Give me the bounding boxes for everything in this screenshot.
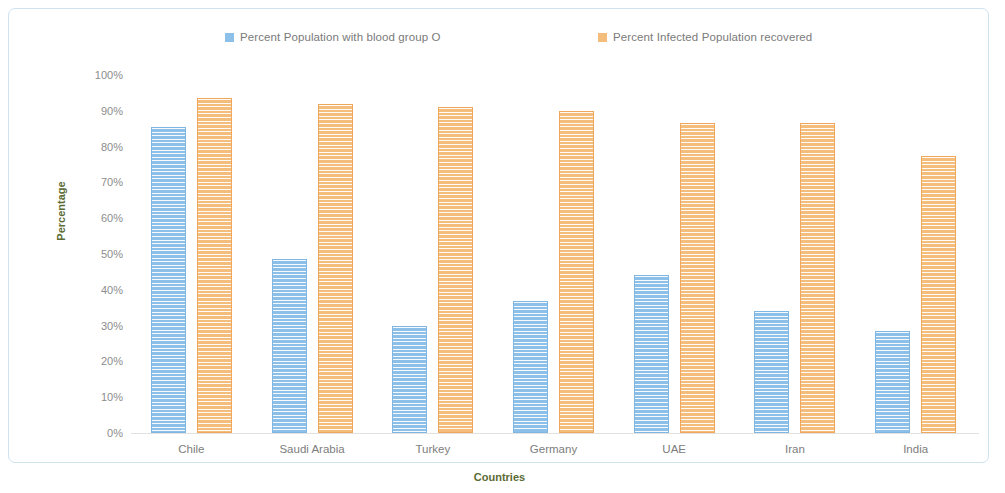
x-tick-label-germany: Germany [493, 443, 614, 455]
bar-group [131, 75, 252, 433]
legend-label-series-0: Percent Population with blood group O [240, 31, 441, 43]
bar-group [493, 75, 614, 433]
bar-group [614, 75, 735, 433]
x-tick-label-uae: UAE [614, 443, 735, 455]
bar-turkey-series-1[interactable] [438, 107, 473, 433]
x-tick-label-turkey: Turkey [372, 443, 493, 455]
y-tick-label: 0% [77, 427, 123, 439]
y-tick-label: 50% [77, 248, 123, 260]
bar-saudi-arabia-series-1[interactable] [318, 104, 353, 433]
bar-iran-series-0[interactable] [754, 311, 789, 433]
y-axis-title: Percentage [55, 151, 67, 271]
bar-saudi-arabia-series-0[interactable] [272, 259, 307, 433]
chart-legend: Percent Population with blood group O Pe… [9, 31, 988, 53]
y-tick-label: 40% [77, 284, 123, 296]
x-axis-title: Countries [9, 471, 990, 483]
y-tick-label: 30% [77, 320, 123, 332]
x-tick-label-iran: Iran [735, 443, 856, 455]
bar-india-series-1[interactable] [921, 156, 956, 433]
x-tick-label-saudi-arabia: Saudi Arabia [252, 443, 373, 455]
chart-card: Percent Population with blood group O Pe… [8, 8, 989, 463]
y-tick-label: 90% [77, 105, 123, 117]
bar-chile-series-1[interactable] [197, 98, 232, 433]
bar-uae-series-0[interactable] [634, 275, 669, 433]
bar-uae-series-1[interactable] [680, 123, 715, 433]
y-tick-label: 70% [77, 176, 123, 188]
legend-item-series-0[interactable]: Percent Population with blood group O [225, 31, 441, 43]
legend-item-series-1[interactable]: Percent Infected Population recovered [598, 31, 812, 43]
y-tick-label: 20% [77, 355, 123, 367]
bar-group [855, 75, 976, 433]
x-tick-label-india: India [855, 443, 976, 455]
y-tick-label: 100% [77, 69, 123, 81]
bar-group [372, 75, 493, 433]
bar-iran-series-1[interactable] [800, 123, 835, 433]
bar-group [735, 75, 856, 433]
bar-chile-series-0[interactable] [151, 127, 186, 433]
legend-swatch-series-1 [598, 33, 607, 42]
legend-swatch-series-0 [225, 33, 234, 42]
bar-germany-series-0[interactable] [513, 301, 548, 433]
bar-germany-series-1[interactable] [559, 111, 594, 433]
bar-group [252, 75, 373, 433]
legend-label-series-1: Percent Infected Population recovered [613, 31, 812, 43]
bar-turkey-series-0[interactable] [392, 326, 427, 433]
x-tick-label-chile: Chile [131, 443, 252, 455]
x-axis-line [131, 433, 979, 434]
plot-area [131, 75, 976, 433]
y-tick-label: 80% [77, 141, 123, 153]
bar-india-series-0[interactable] [875, 331, 910, 433]
y-tick-label: 10% [77, 391, 123, 403]
y-axis-tick-labels: 100%90%80%70%60%50%40%30%20%10%0% [75, 75, 123, 433]
y-tick-label: 60% [77, 212, 123, 224]
